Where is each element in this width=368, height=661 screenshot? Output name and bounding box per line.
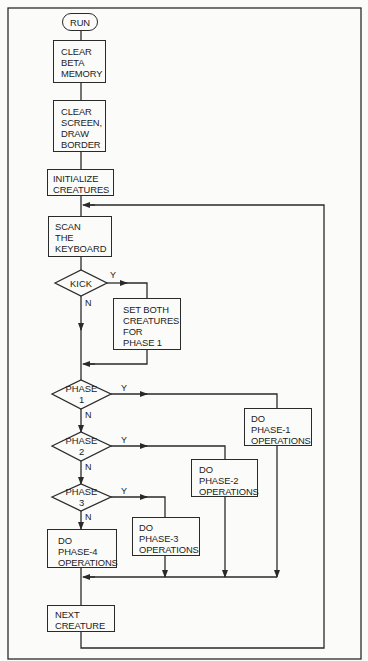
step-text: CREATURE [55,620,114,631]
phase2-no-label: N [85,462,92,472]
step-text: SET BOTH [123,304,180,315]
decision-text: PHASE [52,486,111,497]
step-text: CREATURES [53,184,113,195]
step-text: NEXT [55,609,114,620]
step-clear-beta-memory: CLEAR BETA MEMORY [53,40,106,83]
step-phase1-operations: DO PHASE-1 OPERATIONS [244,408,312,446]
connector-kick-yes [125,283,147,298]
decision-text: PHASE [52,435,111,446]
connector-set-both-return [88,350,147,364]
step-text: DO [139,522,199,533]
step-set-both-creatures: SET BOTH CREATURES FOR PHASE 1 [113,298,181,350]
decision-text: 2 [52,446,111,457]
step-text: PHASE-4 [58,546,116,557]
step-initialize-creatures: INITIALIZE CREATURES [47,169,114,196]
step-text: OPERATIONS [58,557,116,568]
start-terminal: RUN [62,13,98,31]
flowchart-canvas: RUN CLEAR BETA MEMORY CLEAR SCREEN, DRAW… [0,0,368,661]
step-text: CLEAR [61,46,105,57]
phase3-no-label: N [85,512,92,522]
step-text: BETA [61,57,105,68]
step-text: DO [58,535,116,546]
step-scan-keyboard: SCAN THE KEYBOARD [48,216,112,257]
decision-kick-label: KICK [55,278,107,289]
step-text: DO [199,464,257,475]
step-text: INITIALIZE [53,173,113,184]
step-text: CLEAR [61,106,105,117]
step-text: DRAW [61,128,105,139]
decision-text: 3 [52,497,111,508]
decision-phase1-label: PHASE 1 [52,383,111,405]
phase2-yes-label: Y [121,435,127,445]
kick-no-label: N [85,298,92,308]
decision-phase3-label: PHASE 3 [52,486,111,508]
step-text: OPERATIONS [139,544,199,555]
decision-text: 1 [52,394,111,405]
start-label: RUN [70,17,90,28]
kick-yes-label: Y [110,270,116,280]
step-text: SCREEN, [61,117,105,128]
connector-phase1-yes [145,394,277,408]
connector-phase3-yes [145,497,165,517]
decision-text: PHASE [52,383,111,394]
step-text: MEMORY [61,68,105,79]
phase1-yes-label: Y [121,383,127,393]
step-text: PHASE-2 [199,475,257,486]
decision-text: KICK [70,278,92,289]
step-text: OPERATIONS [199,486,257,497]
step-text: DO [251,413,311,424]
step-text: CREATURES [123,315,180,326]
phase1-no-label: N [85,410,92,420]
phase3-yes-label: Y [121,486,127,496]
step-next-creature: NEXT CREATURE [47,605,115,632]
step-text: PHASE-1 [251,424,311,435]
step-text: BORDER [61,139,105,150]
step-text: KEYBOARD [55,243,111,254]
connector-phase2-yes [145,446,225,459]
step-phase2-operations: DO PHASE-2 OPERATIONS [191,459,258,497]
step-text: FOR [123,326,180,337]
step-text: PHASE 1 [123,337,180,348]
step-text: PHASE-3 [139,533,199,544]
step-text: THE [55,232,111,243]
step-phase4-operations: DO PHASE-4 OPERATIONS [47,529,117,568]
decision-phase2-label: PHASE 2 [52,435,111,457]
step-text: SCAN [55,221,111,232]
step-phase3-operations: DO PHASE-3 OPERATIONS [132,517,200,556]
step-clear-screen-draw-border: CLEAR SCREEN, DRAW BORDER [53,100,106,152]
step-text: OPERATIONS [251,435,311,446]
